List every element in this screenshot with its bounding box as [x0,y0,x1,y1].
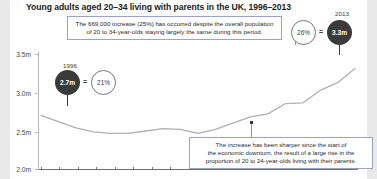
marker-group-2013: 2013 26% = 3.3m [285,10,367,50]
marker-equals-2013: = [319,28,323,35]
marker-stem-2013 [339,45,340,55]
bottom-annotation-line-1: The increase has been sharper since the … [194,141,368,149]
top-annotation-callout: The 669,000 increase (25%) has occurred … [67,16,282,40]
marker-count-bubble-1996: 2.7m [55,70,80,95]
page-gutter-left [0,0,10,179]
top-annotation-line-1: The 669,000 increase (25%) has occurred … [73,20,276,28]
marker-group-1996: 1996 2.7m = 21% [48,62,130,100]
marker-percent-bubble-1996: 21% [91,70,116,95]
chart-root: Young adults aged 20–34 living with pare… [0,0,377,179]
y-label-2.0m: 2.0m [16,166,31,173]
bottom-annotation-line-2: the economic downturn, the result of a l… [194,149,368,157]
y-label-3.5m: 3.5m [16,51,31,58]
marker-year-2013: 2013 [328,10,356,17]
bottom-annotation-anchor-dot [250,121,253,124]
y-label-3.0m: 3.0m [16,90,31,97]
marker-percent-bubble-2013: 26% [291,20,316,45]
page-title: Young adults aged 20–34 living with pare… [26,2,291,12]
marker-stem-1996 [67,95,68,106]
top-annotation-line-2: of 20 to 34-year-olds staying largely th… [73,28,276,36]
marker-year-1996: 1996 [56,62,84,69]
marker-equals-1996: = [83,78,87,85]
bottom-annotation-callout: The increase has been sharper since the … [189,137,373,169]
y-label-2.5m: 2.5m [16,129,31,136]
marker-count-bubble-2013: 3.3m [327,20,352,45]
bottom-annotation-line-3: proportion of 20 to 24-year-olds living … [194,157,368,165]
bottom-annotation-leader [251,124,252,137]
